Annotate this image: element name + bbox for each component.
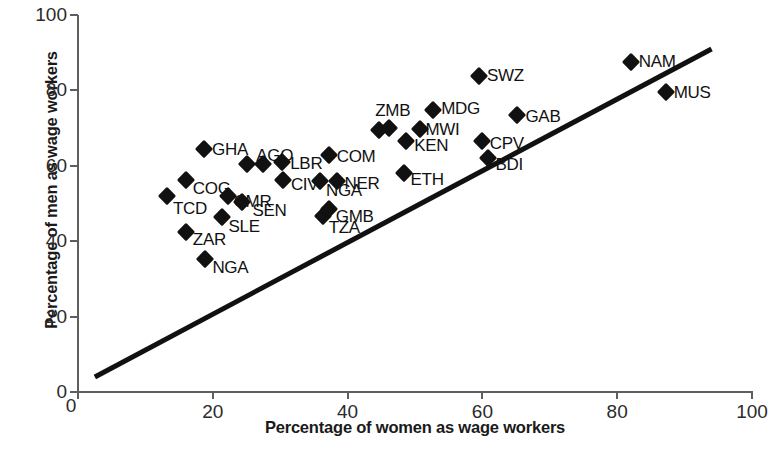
- x-tick-mark: [212, 391, 214, 399]
- data-point-label: SWZ: [487, 66, 524, 86]
- data-point-label: GAB: [525, 107, 560, 127]
- y-tick-label: 80: [46, 79, 67, 101]
- data-point-label: NER: [344, 174, 379, 194]
- y-tick-mark: [70, 240, 78, 242]
- x-tick-mark: [616, 391, 618, 399]
- y-axis-title: Percentage of men as wage workers: [34, 0, 68, 390]
- data-point-label: ZAR: [193, 230, 226, 250]
- data-point-label: MDG: [441, 99, 480, 119]
- y-tick-label: 40: [46, 230, 67, 252]
- data-point-label: GHA: [212, 140, 248, 160]
- data-point-label: TCD: [173, 199, 207, 219]
- y-tick-label: 60: [46, 155, 67, 177]
- x-axis-title: Percentage of women as wage workers: [78, 418, 752, 437]
- chart-page: Percentage of men as wage workers 020406…: [0, 0, 771, 451]
- plot-area: 020406080100 020406080100 TCDCOGZARGHANG…: [78, 15, 752, 391]
- data-point-label: NAM: [639, 52, 676, 72]
- data-point-label: CPV: [490, 134, 524, 154]
- y-tick-mark: [70, 89, 78, 91]
- y-tick-mark: [70, 165, 78, 167]
- data-point-label: NGA: [212, 258, 248, 278]
- data-point-label: ETH: [411, 170, 444, 190]
- y-tick-label: 20: [46, 306, 67, 328]
- data-point-label: BDI: [495, 155, 522, 175]
- data-point-label: SEN: [252, 201, 286, 221]
- data-point-label: ZMB: [375, 101, 410, 121]
- y-tick-label: 100: [35, 4, 67, 26]
- data-point-label: MWI: [425, 120, 459, 140]
- data-point-label: GMB: [336, 207, 374, 227]
- data-point-label: LBR: [290, 154, 322, 174]
- data-point-label: MUS: [674, 83, 711, 103]
- x-tick-label: 0: [66, 395, 77, 417]
- y-tick-mark: [70, 14, 78, 16]
- x-tick-mark: [481, 391, 483, 399]
- y-tick-mark: [70, 316, 78, 318]
- x-tick-mark: [751, 391, 753, 399]
- x-tick-mark: [347, 391, 349, 399]
- x-tick-mark: [77, 391, 79, 399]
- data-point-label: COM: [337, 147, 376, 167]
